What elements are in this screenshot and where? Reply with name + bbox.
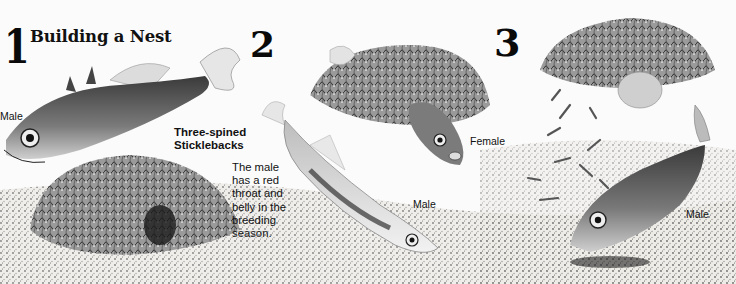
species-heading-line-2: Sticklebacks [174, 139, 246, 152]
label-panel3-male: Male [686, 208, 709, 220]
caption-line: The male [232, 161, 312, 174]
species-heading-line-1: Three-spined [174, 126, 246, 139]
caption-line: breeding [232, 214, 312, 227]
caption-line: season. [232, 227, 312, 240]
caption-text: The male has a red throat and belly in t… [232, 161, 312, 240]
illustration-title: Building a Nest [30, 27, 172, 46]
label-panel1-male: Male [0, 110, 23, 122]
caption-line: has a red [232, 174, 312, 187]
label-panel2-female: Female [470, 135, 505, 147]
caption-line: belly in the [232, 201, 312, 214]
species-heading: Three-spined Sticklebacks [174, 126, 246, 152]
panel3-nest [540, 18, 715, 108]
caption-line: throat and [232, 187, 312, 200]
stickleback-nest-illustration: 1 Building a Nest 2 3 Male Three-spined … [0, 0, 736, 284]
label-panel2-male: Male [413, 198, 436, 210]
panel-number-3: 3 [494, 24, 520, 62]
panel1-nest [30, 155, 240, 255]
panel-number-2: 2 [250, 26, 275, 62]
panel-number-1: 1 [4, 24, 30, 70]
panel2-nest [310, 45, 490, 125]
